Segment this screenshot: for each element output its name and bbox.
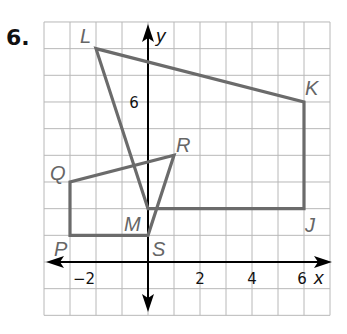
- vertex-label-k: K: [305, 77, 320, 99]
- y-tick-6: 6: [129, 94, 139, 112]
- x-tick-6: 6: [297, 270, 307, 288]
- vertex-label-q: Q: [50, 162, 66, 184]
- vertex-label-j: J: [304, 214, 316, 236]
- y-axis-label: y: [154, 25, 167, 46]
- x-tick-2: 2: [195, 270, 205, 288]
- vertex-label-m: M: [124, 213, 141, 235]
- tick-labels: −2 2 4 6 6 x y: [73, 25, 325, 288]
- x-tick-neg2: −2: [73, 270, 95, 288]
- x-axis-label: x: [313, 267, 325, 288]
- coordinate-plane: −2 2 4 6 6 x y L K J M Q R S P: [0, 0, 347, 334]
- vertex-label-s: S: [152, 238, 166, 260]
- vertex-labels: L K J M Q R S P: [50, 25, 320, 260]
- axes: [46, 24, 332, 312]
- vertex-label-l: L: [80, 25, 91, 47]
- x-tick-4: 4: [247, 270, 257, 288]
- vertex-label-p: P: [54, 238, 68, 260]
- vertex-label-r: R: [176, 134, 190, 156]
